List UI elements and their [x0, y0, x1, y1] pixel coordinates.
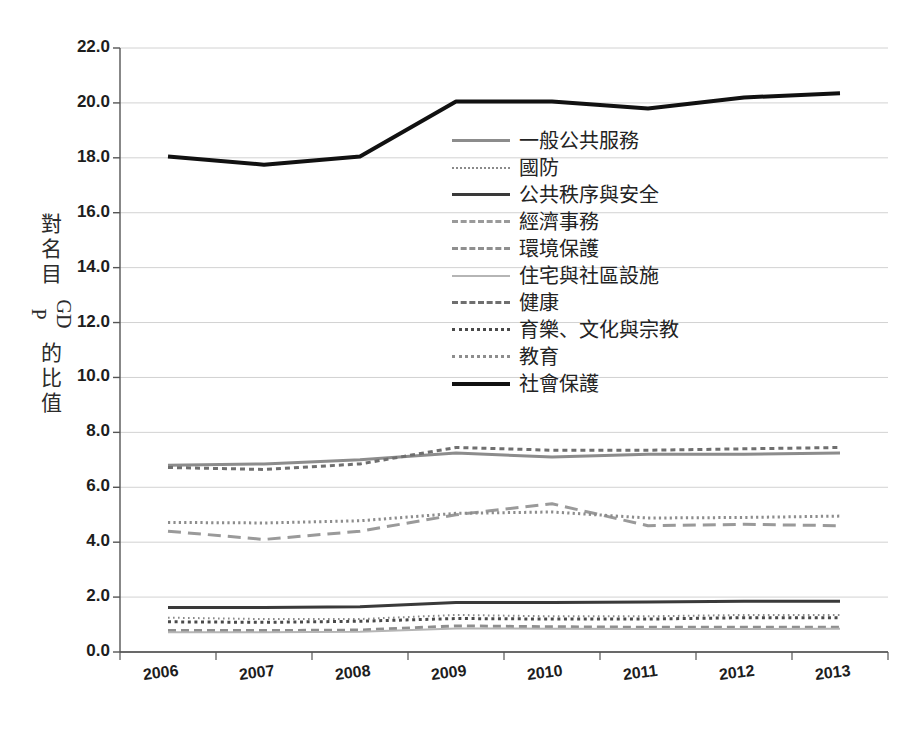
legend-label: 一般公共服務: [519, 131, 639, 151]
legend-swatch-line-icon: [452, 328, 510, 331]
series-line-5: [168, 628, 840, 632]
y-axis-tick-label: 0.0: [44, 641, 110, 661]
legend-swatch-line-icon: [452, 355, 510, 358]
legend-swatch-line-icon: [452, 193, 510, 196]
legend-label: 國防: [519, 158, 559, 178]
y-axis-tick-label: 22.0: [44, 37, 110, 57]
y-axis-tick-label: 12.0: [44, 312, 110, 332]
y-axis-tick-label: 14.0: [44, 257, 110, 277]
y-axis-tick-label: 6.0: [44, 476, 110, 496]
legend-swatch-line-icon: [452, 275, 510, 277]
legend-label: 環境保護: [519, 239, 599, 259]
y-axis-tick-label: 8.0: [44, 421, 110, 441]
legend-item[interactable]: 公共秩序與安全: [452, 181, 722, 208]
y-axis-tick-label: 10.0: [44, 366, 110, 386]
y-axis-tick-label: 16.0: [44, 202, 110, 222]
y-axis-tick-label: 2.0: [44, 586, 110, 606]
legend-swatch-line-icon: [452, 301, 510, 304]
legend-item[interactable]: 經濟事務: [452, 208, 722, 235]
y-axis-tick-labels: 0.02.04.06.08.010.012.014.016.018.020.02…: [44, 0, 110, 730]
legend-label: 社會保護: [519, 374, 599, 394]
y-axis-tick-label: 18.0: [44, 147, 110, 167]
legend-label: 健康: [519, 293, 559, 313]
legend-item[interactable]: 育樂、文化與宗教: [452, 316, 722, 343]
series-line-0: [168, 453, 840, 465]
legend-item[interactable]: 健康: [452, 289, 722, 316]
legend-swatch-line-icon: [452, 139, 510, 142]
chart-legend: 一般公共服務國防公共秩序與安全經濟事務環境保護住宅與社區設施健康育樂、文化與宗教…: [452, 127, 722, 397]
legend-item[interactable]: 一般公共服務: [452, 127, 722, 154]
legend-swatch-line-icon: [452, 382, 510, 386]
legend-item[interactable]: 教育: [452, 343, 722, 370]
legend-item[interactable]: 國防: [452, 154, 722, 181]
legend-swatch-line-icon: [452, 167, 510, 169]
series-line-6: [168, 447, 840, 469]
line-chart: 對 名 目 GDP 的 比 值 0.02.04.06.08.010.012.01…: [0, 0, 918, 730]
y-axis-tick-label: 20.0: [44, 92, 110, 112]
series-line-8: [168, 512, 840, 523]
legend-swatch-line-icon: [452, 220, 510, 223]
legend-label: 經濟事務: [519, 212, 599, 232]
legend-item[interactable]: 環境保護: [452, 235, 722, 262]
legend-label: 育樂、文化與宗教: [519, 320, 679, 340]
series-line-2: [168, 601, 840, 607]
y-axis-tick-label: 4.0: [44, 531, 110, 551]
legend-item[interactable]: 社會保護: [452, 370, 722, 397]
legend-swatch-line-icon: [452, 247, 510, 250]
legend-label: 教育: [519, 347, 559, 367]
series-line-1: [168, 615, 840, 619]
legend-item[interactable]: 住宅與社區設施: [452, 262, 722, 289]
legend-label: 公共秩序與安全: [519, 185, 659, 205]
series-line-3: [168, 504, 840, 540]
legend-label: 住宅與社區設施: [519, 266, 659, 286]
